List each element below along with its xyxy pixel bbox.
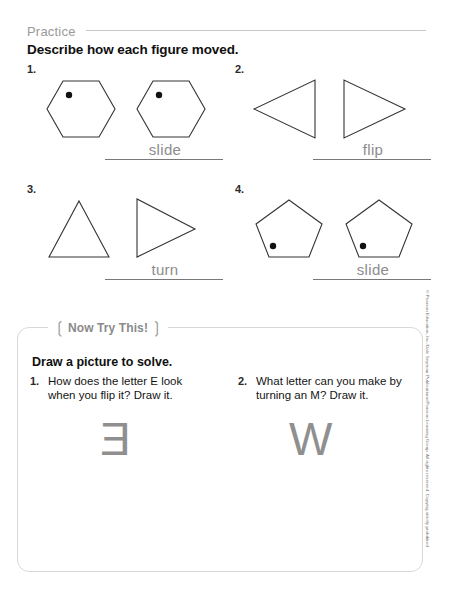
figure-triangle-right-pointing xyxy=(339,75,421,143)
figure-triangle-right-pointing xyxy=(131,195,213,263)
answer-area: slide xyxy=(313,261,433,280)
section-label: Practice xyxy=(27,24,76,39)
now-try-this-subtitle: Draw a picture to solve. xyxy=(32,355,172,369)
figure-hexagon-original xyxy=(41,75,123,143)
now-try-this-header: ❲ Now Try This! ❳ xyxy=(48,319,168,336)
answer-line xyxy=(313,279,431,280)
try-question-text: What letter can you make by turning an M… xyxy=(256,374,413,402)
figure-triangle-up-pointing xyxy=(41,195,123,263)
bracket-right-icon: ❳ xyxy=(150,320,163,336)
now-try-this-title: Now Try This! xyxy=(68,321,148,335)
copyright-notice: © Pearson Education, Inc./Dale Seymour P… xyxy=(425,290,430,490)
mirrored-letter: E xyxy=(100,416,131,462)
figure-pentagon-original xyxy=(249,195,331,263)
problem-number: 2. xyxy=(235,63,244,75)
answer-word: slide xyxy=(313,261,433,278)
directions-text: Describe how each figure moved. xyxy=(27,42,238,57)
try-question-2: 2. What letter can you make by turning a… xyxy=(238,374,413,402)
problem-number: 3. xyxy=(27,183,36,195)
answer-area: turn xyxy=(105,261,225,280)
header-rule xyxy=(86,30,426,31)
figure-triangle-left-pointing xyxy=(249,75,331,143)
problem-2: 2. flip xyxy=(235,63,440,175)
problem-3: 3. turn xyxy=(27,183,232,295)
figure-pair xyxy=(249,75,439,143)
page-header: Practice xyxy=(27,22,427,40)
figure-pentagon-moved xyxy=(339,195,421,263)
answer-drawing-flipped-e: E xyxy=(100,416,131,462)
answer-word: slide xyxy=(105,141,225,158)
answer-line xyxy=(105,279,223,280)
answer-drawing-turned-m: W xyxy=(289,416,332,462)
problem-number: 4. xyxy=(235,183,244,195)
problem-1: 1. slide xyxy=(27,63,232,175)
figure-pair xyxy=(249,195,439,263)
figure-hexagon-moved xyxy=(131,75,213,143)
figure-pair xyxy=(41,195,231,263)
problem-4: 4. slide xyxy=(235,183,440,295)
answer-word: turn xyxy=(105,261,225,278)
answer-line xyxy=(313,159,431,160)
answer-line xyxy=(105,159,223,160)
answer-area: slide xyxy=(105,141,225,160)
try-question-number: 2. xyxy=(238,375,247,387)
try-question-text: How does the letter E look when you flip… xyxy=(48,374,205,402)
bracket-left-icon: ❲ xyxy=(53,320,66,336)
try-question-number: 1. xyxy=(30,375,39,387)
figure-pair xyxy=(41,75,231,143)
answer-word: flip xyxy=(313,141,433,158)
answer-area: flip xyxy=(313,141,433,160)
try-question-1: 1. How does the letter E look when you f… xyxy=(30,374,205,402)
problem-number: 1. xyxy=(27,63,36,75)
